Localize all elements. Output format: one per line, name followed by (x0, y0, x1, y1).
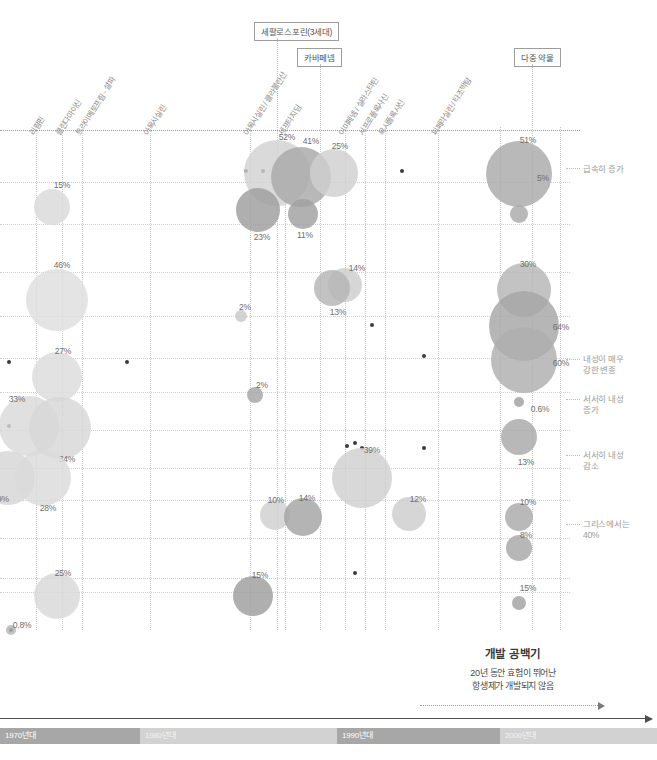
marker-dot (345, 444, 349, 448)
trend-annotation-label: 서서히 내성 증가 (583, 394, 624, 417)
resistance-bubble (314, 270, 350, 306)
development-gap-arrow (420, 705, 598, 706)
horizontal-gridline (0, 592, 570, 593)
resistance-bubble (34, 189, 70, 225)
drug-class-leader-line (320, 64, 321, 136)
resistance-bubble (15, 450, 71, 506)
trend-annotation-label: 내성이 매우 강한 변종 (583, 354, 624, 377)
resistance-bubble (501, 419, 537, 455)
trend-annotation-label: 그리스에서는 40% (583, 519, 629, 542)
resistance-bubble (512, 596, 526, 610)
marker-dot (422, 354, 426, 358)
bubble-value-label: 11% (297, 230, 313, 240)
annotation-leader-line (566, 168, 580, 169)
marker-dot (125, 360, 129, 364)
decade-band: 1970년대 (0, 728, 140, 744)
bubble-value-label: 13% (330, 307, 346, 317)
bubble-value-label: 13% (518, 457, 534, 467)
marker-dot (400, 169, 404, 173)
bubble-value-label: 15% (252, 570, 268, 580)
resistance-bubble (32, 352, 82, 402)
marker-dot (353, 571, 357, 575)
drug-class-label: 다중 약물 (514, 48, 561, 67)
bubble-value-label: 28% (40, 503, 56, 513)
marker-dot (353, 441, 357, 445)
bubble-value-label: 46% (54, 260, 70, 270)
bubble-value-label: 15% (520, 583, 536, 593)
development-gap-title: 개발 공백기 (398, 645, 628, 661)
vertical-gridline (365, 127, 366, 630)
bubble-chart-canvas: 리팜핀클린다마이신트라이메토프림 - 설파아목시실린아목시실린 / 클라불란산세… (0, 0, 657, 760)
drug-name-label: 피페라실린 / 타조박탐 (429, 75, 473, 137)
drug-class-leader-line (277, 38, 278, 136)
bubble-value-label: 30% (520, 259, 536, 269)
bubble-value-label: 9% (0, 494, 9, 504)
bubble-value-label: 64% (553, 322, 569, 332)
resistance-bubble (510, 205, 528, 223)
resistance-bubble (236, 188, 280, 232)
horizontal-gridline (0, 272, 570, 273)
bubble-value-label: 10% (520, 497, 536, 507)
horizontal-gridline (0, 500, 570, 501)
annotation-leader-line (566, 524, 580, 525)
trend-annotation-label: 급속히 증가 (583, 164, 624, 175)
bubble-value-label: 15% (54, 180, 70, 190)
bubble-value-label: 14% (299, 493, 315, 503)
vertical-gridline (560, 127, 561, 630)
horizontal-gridline (0, 392, 570, 393)
development-gap-subtitle: 20년 동안 효험이 뛰어난 항생제가 개발되지 않음 (398, 667, 628, 692)
bubble-value-label: 33% (9, 394, 25, 404)
resistance-bubble (26, 269, 88, 331)
marker-dot (422, 446, 426, 450)
bubble-value-label: 39% (364, 445, 380, 455)
horizontal-gridline (0, 468, 570, 469)
marker-dot (370, 323, 374, 327)
resistance-bubble (332, 448, 392, 508)
drug-class-label: 세팔로스포린(3세대) (254, 22, 339, 41)
decade-band: 2000년대 (500, 728, 657, 744)
decade-bands: 1970년대1980년대1990년대2000년대 (0, 728, 657, 744)
horizontal-gridline (0, 538, 570, 539)
annotation-leader-line (566, 399, 580, 400)
bubble-value-label: 25% (332, 141, 348, 151)
plot-area: 15%52%41%25%23%11%51%5%46%14%13%30%64%60… (0, 130, 570, 630)
development-gap-note: 개발 공백기 20년 동안 효험이 뛰어난 항생제가 개발되지 않음 (398, 645, 628, 692)
bubble-value-label: 27% (55, 346, 71, 356)
bubble-value-label: 12% (410, 494, 426, 504)
resistance-bubble (284, 498, 322, 536)
vertical-gridline (345, 127, 346, 630)
resistance-bubble (310, 149, 358, 197)
marker-dot (7, 360, 11, 364)
bubble-value-label: 2% (239, 302, 251, 312)
horizontal-gridline (0, 578, 570, 579)
resistance-bubble (288, 199, 318, 229)
bubble-value-label: 23% (254, 232, 270, 242)
bubble-value-label: 41% (303, 136, 319, 146)
bubble-value-label: 8% (520, 530, 532, 540)
annotation-leader-line (566, 455, 580, 456)
bubble-value-label: 0.8% (13, 620, 32, 630)
bubble-value-label: 10% (268, 495, 284, 505)
vertical-gridline (385, 127, 386, 630)
vertical-gridline (150, 127, 151, 630)
resistance-bubble (491, 327, 557, 393)
resistance-bubble (233, 576, 273, 616)
bubble-value-label: 0.6% (531, 404, 550, 414)
trend-annotation-label: 서서히 내성 감소 (583, 450, 624, 473)
timeline-axis-arrow (0, 718, 645, 719)
resistance-bubble (505, 503, 533, 531)
vertical-gridline (320, 127, 321, 630)
bubble-value-label: 52% (279, 132, 295, 142)
bubble-value-label: 2% (256, 380, 268, 390)
bubble-value-label: 51% (520, 135, 536, 145)
horizontal-gridline (0, 224, 570, 225)
vertical-gridline (82, 127, 83, 630)
horizontal-gridline (0, 316, 570, 317)
resistance-bubble (514, 397, 524, 407)
bubble-value-label: 5% (537, 173, 549, 183)
bubble-value-label: 14% (349, 263, 365, 273)
bubble-value-label: 25% (55, 568, 71, 578)
horizontal-gridline (0, 358, 570, 359)
decade-band: 1980년대 (140, 728, 337, 744)
resistance-bubble (34, 573, 80, 619)
